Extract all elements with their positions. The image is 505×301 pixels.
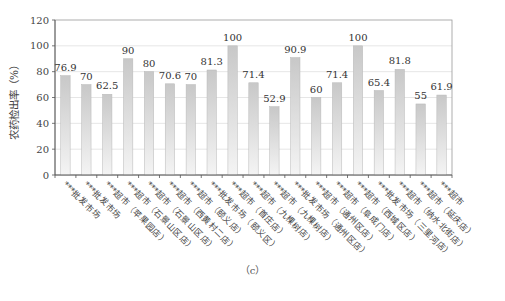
bar xyxy=(186,85,195,175)
bar-value-label: 65.4 xyxy=(368,77,390,88)
bar xyxy=(374,91,383,175)
bar-value-label: 62.5 xyxy=(96,80,118,91)
bar-value-label: 81.3 xyxy=(201,56,223,67)
bar xyxy=(291,58,300,175)
bar xyxy=(61,76,70,175)
y-tick-label: 0 xyxy=(43,170,49,181)
bar-value-label: 100 xyxy=(223,32,242,43)
bar xyxy=(311,98,320,176)
bar-value-label: 76.9 xyxy=(54,62,76,73)
bar xyxy=(123,59,132,175)
bar-value-label: 70 xyxy=(184,71,197,82)
bar-value-label: 60 xyxy=(310,84,323,95)
bar-value-label: 52.9 xyxy=(263,93,285,104)
bar xyxy=(249,83,258,175)
bar xyxy=(228,46,237,175)
y-tick-label: 120 xyxy=(30,15,49,26)
y-axis-ticks: 020406080100120 xyxy=(30,15,49,181)
x-axis-category-labels: ***批发市场***批发市场***超市（苹果园店）***超市（石景山区店）***… xyxy=(61,179,477,259)
bar-value-label: 71.4 xyxy=(242,69,264,80)
bar-value-label: 61.9 xyxy=(430,81,452,92)
figure-caption: （c） xyxy=(0,262,505,277)
bar xyxy=(332,83,341,175)
bar xyxy=(82,85,91,175)
y-tick-label: 40 xyxy=(36,118,49,129)
bar xyxy=(353,46,362,175)
y-tick-label: 100 xyxy=(30,40,49,51)
bar xyxy=(395,69,404,175)
bar-value-label: 70 xyxy=(80,71,93,82)
bar-value-label: 100 xyxy=(348,32,367,43)
bar xyxy=(144,72,153,175)
bar-chart: 76.97062.5908070.67081.310071.452.990.96… xyxy=(0,0,505,301)
y-tick-label: 20 xyxy=(36,144,49,155)
bar xyxy=(416,104,425,175)
bar-value-label: 81.8 xyxy=(389,55,411,66)
bar xyxy=(437,95,446,175)
bar-value-label: 80 xyxy=(143,58,156,69)
bar-value-label: 70.6 xyxy=(159,70,181,81)
bar-value-label: 55 xyxy=(414,90,427,101)
bar xyxy=(165,84,174,175)
bar-value-label: 90.9 xyxy=(284,44,306,55)
bar xyxy=(270,107,279,175)
y-tick-label: 80 xyxy=(36,66,49,77)
bar-value-label: 71.4 xyxy=(326,69,348,80)
y-axis-label: 农药检出率（%） xyxy=(8,60,20,140)
bar xyxy=(207,70,216,175)
y-tick-label: 60 xyxy=(36,92,49,103)
bar-value-label: 90 xyxy=(122,45,135,56)
bar xyxy=(103,94,112,175)
